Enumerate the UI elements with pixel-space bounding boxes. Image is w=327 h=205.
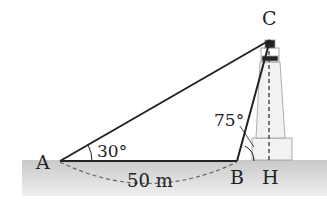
angle-b-label: 75° (214, 112, 244, 129)
angle-a-label: 30° (97, 143, 127, 160)
lighthouse-diagram: A B C H 30° 75° 50 m (0, 0, 327, 205)
point-b-label: B (230, 168, 244, 187)
point-c-label: C (262, 9, 277, 28)
lighthouse-icon (252, 40, 292, 160)
point-h-label: H (262, 168, 279, 187)
point-a-label: A (36, 153, 50, 172)
distance-ab-label: 50 m (127, 172, 173, 190)
